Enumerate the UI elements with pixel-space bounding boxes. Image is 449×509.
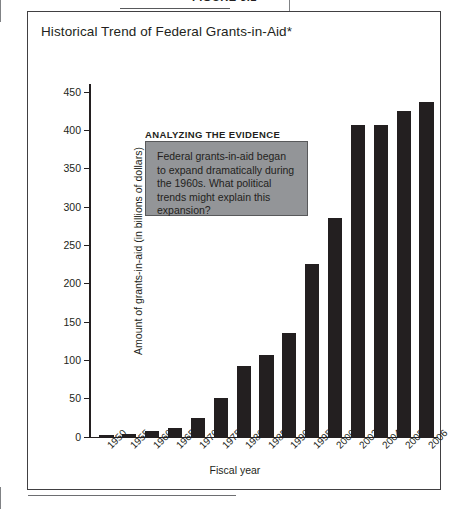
y-tick-label: 300 [63,201,81,213]
chart-title: Historical Trend of Federal Grants-in-Ai… [41,24,292,39]
y-tick-label: 100 [63,354,81,366]
y-tick-label: 50 [69,392,81,404]
y-tick-label: 250 [63,239,81,251]
y-tick-mark [84,207,89,208]
y-tick-label: 350 [63,162,81,174]
x-axis-label: Fiscal year [28,464,442,476]
bar [305,264,319,436]
bar [419,102,433,437]
annotation-box: Federal grants-in-aid began to expand dr… [145,141,308,216]
y-tick-mark [84,92,89,93]
figure-number: FIGURE 3.1 [0,0,449,3]
page-footer-rule [28,495,236,496]
y-tick-mark [84,245,89,246]
y-tick-label: 0 [75,431,81,443]
y-tick-mark [84,360,89,361]
y-tick-mark [84,283,89,284]
page-rule-left-bottom [0,487,1,509]
figure-header-rule [120,8,230,9]
y-tick-mark [84,437,89,438]
y-axis-line [89,84,91,438]
bar [328,218,342,436]
bar [397,111,411,437]
figure-page: FIGURE 3.1 Historical Trend of Federal G… [0,0,449,509]
bar [282,333,296,437]
x-tick-label: 1950 [105,427,129,451]
bar [237,366,251,436]
y-tick-mark [84,398,89,399]
y-tick-label: 400 [63,124,81,136]
bar [351,125,365,437]
bar [374,125,388,437]
figure-frame: Historical Trend of Federal Grants-in-Ai… [27,11,441,490]
y-tick-mark [84,130,89,131]
bar [259,355,273,436]
annotation-heading: ANALYZING THE EVIDENCE [145,129,280,140]
y-tick-mark [84,322,89,323]
y-tick-label: 450 [63,86,81,98]
y-tick-label: 200 [63,277,81,289]
y-tick-label: 150 [63,316,81,328]
y-tick-mark [84,168,89,169]
